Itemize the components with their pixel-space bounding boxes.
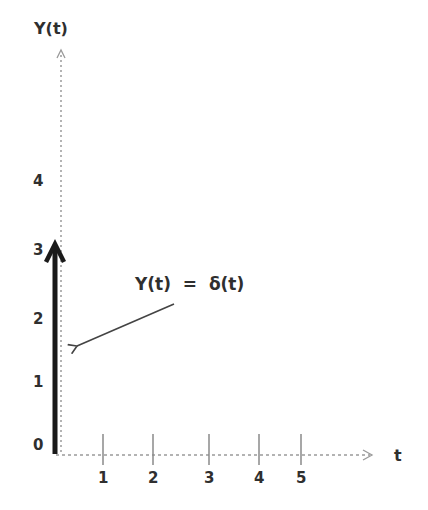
y-tick-label-4: 4 — [33, 172, 43, 190]
impulse-diagram: Y(t) t 1 2 3 4 5 0 1 2 3 4 Y(t) = δ(t) — [0, 0, 428, 510]
t-tick-label-1: 1 — [98, 469, 108, 487]
t-tick-label-3: 3 — [204, 469, 214, 487]
y-axis-label: Y(t) — [33, 19, 68, 38]
t-axis-ticks — [103, 434, 301, 465]
t-tick-label-5: 5 — [296, 469, 306, 487]
impulse-equation-label: Y(t) = δ(t) — [134, 274, 244, 294]
t-tick-label-2: 2 — [148, 469, 158, 487]
y-tick-label-2: 2 — [33, 310, 43, 328]
t-tick-label-4: 4 — [254, 469, 264, 487]
y-tick-label-1: 1 — [33, 373, 43, 391]
t-axis-label: t — [394, 446, 402, 465]
y-tick-label-3: 3 — [33, 241, 43, 259]
annotation-pointer-arrow — [77, 304, 174, 346]
y-tick-label-0: 0 — [33, 436, 43, 454]
